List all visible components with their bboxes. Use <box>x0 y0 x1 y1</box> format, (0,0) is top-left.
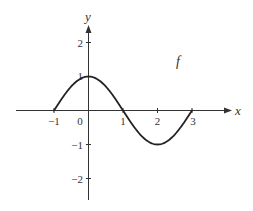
function-label: f <box>176 54 182 69</box>
x-tick-label-2: 2 <box>155 115 161 127</box>
y-axis-label: y <box>83 9 91 24</box>
y-tick-label-2: 2 <box>78 37 84 49</box>
y-axis-arrow-icon <box>86 25 92 33</box>
function-graph: −1 0 1 2 3 2 1 −1 −2 x y f <box>0 0 253 211</box>
y-tick-label-neg1: −1 <box>71 139 83 151</box>
x-tick-label-0: 0 <box>77 115 83 127</box>
x-axis-label: x <box>234 103 241 118</box>
y-tick-label-neg2: −2 <box>71 173 83 185</box>
x-axis-arrow-icon <box>224 108 232 114</box>
x-tick-label-1: 1 <box>120 115 126 127</box>
x-tick-label-3: 3 <box>190 115 196 127</box>
x-tick-label-neg1: −1 <box>48 115 60 127</box>
